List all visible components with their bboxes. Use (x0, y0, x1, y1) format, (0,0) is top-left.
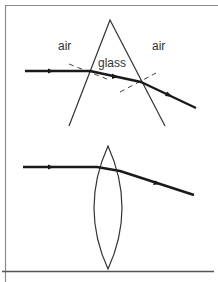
lens-panel (23, 146, 194, 269)
prism-panel: air glass air (25, 20, 196, 126)
label-air-left: air (58, 39, 71, 53)
prism-outline (69, 20, 165, 126)
arrow-icon (48, 165, 54, 170)
convex-lens-outline (94, 146, 122, 269)
label-glass: glass (98, 56, 126, 70)
arrow-icon (165, 92, 173, 98)
arrow-icon (48, 69, 54, 74)
light-ray-lens (23, 167, 194, 195)
refraction-diagram: air glass air (0, 0, 218, 282)
light-ray-prism (25, 71, 196, 108)
frame (2, 5, 218, 282)
label-air-right: air (152, 39, 165, 53)
